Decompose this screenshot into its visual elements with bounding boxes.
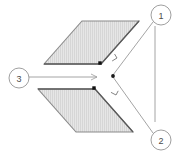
callout-1[interactable]: 1 [151, 5, 171, 25]
callout-2-label: 2 [158, 136, 163, 146]
upper-plate-marker [98, 61, 101, 64]
technical-figure: 1 2 3 [0, 0, 178, 157]
callout-3[interactable]: 3 [9, 68, 29, 88]
lower-plate-marker [92, 86, 95, 89]
callout-3-label: 3 [16, 74, 21, 84]
center-vertex-marker [111, 74, 115, 78]
figure-canvas: 1 2 3 [0, 0, 178, 157]
callout-1-label: 1 [158, 11, 163, 21]
callout-2[interactable]: 2 [151, 130, 171, 150]
